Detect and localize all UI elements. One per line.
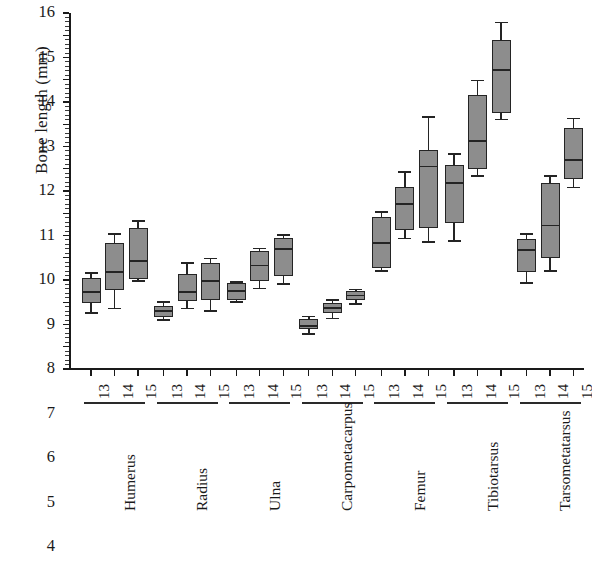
box-plot-item (250, 13, 269, 369)
x-stage-label: 13 (533, 384, 548, 399)
x-tick (259, 369, 260, 376)
upper-whisker-cap (302, 316, 315, 318)
median-line (299, 325, 318, 327)
box-body (468, 95, 487, 168)
y-tick-label: 9 (47, 316, 55, 333)
x-tick (549, 369, 550, 376)
lower-whisker (526, 272, 527, 282)
box-plot-item (105, 13, 124, 369)
lower-whisker-cap (520, 282, 533, 284)
upper-whisker (428, 116, 429, 149)
box-plot-item (372, 13, 391, 369)
x-tick (163, 369, 164, 376)
x-group-label: Femur (412, 471, 428, 511)
median-line (178, 291, 197, 293)
lower-whisker-cap (157, 319, 170, 321)
x-stage-label: 13 (242, 384, 257, 399)
y-tick-label: 4 (47, 538, 55, 555)
box-plot-item (299, 13, 318, 369)
upper-whisker-cap (567, 118, 580, 120)
box-plot-item (541, 13, 560, 369)
upper-whisker (500, 22, 501, 40)
box-plot-item (517, 13, 536, 369)
lower-whisker-cap (181, 308, 194, 310)
lower-whisker (428, 228, 429, 241)
upper-whisker-cap (204, 258, 217, 260)
median-line (82, 291, 101, 293)
x-tick (90, 369, 91, 376)
x-stage-label: 14 (556, 384, 571, 399)
median-line (154, 310, 173, 312)
x-stage-label: 14 (338, 384, 353, 399)
x-stage-label: 13 (387, 384, 402, 399)
x-group-label: Ulna (267, 481, 283, 511)
box-body (129, 228, 148, 279)
lower-whisker-cap (471, 175, 484, 177)
box-plot-item (201, 13, 220, 369)
box-plot-item (445, 13, 464, 369)
group-rule (374, 402, 435, 404)
lower-whisker-cap (349, 303, 362, 305)
median-line (346, 295, 365, 297)
box-series (69, 13, 584, 369)
median-line (274, 248, 293, 250)
group-rule (157, 402, 218, 404)
box-body (564, 128, 583, 179)
x-stage-label: 15 (144, 384, 159, 399)
y-tick-label: 13 (39, 138, 56, 155)
x-tick (114, 369, 115, 376)
x-tick (236, 369, 237, 376)
x-stage-label: 15 (217, 384, 232, 399)
group-rule (447, 402, 508, 404)
box-body (395, 187, 414, 230)
lower-whisker-cap (302, 333, 315, 335)
upper-whisker-cap (277, 234, 290, 236)
x-stage-label: 14 (484, 384, 499, 399)
lower-whisker-cap (495, 119, 508, 121)
lower-whisker (186, 301, 187, 308)
box-body (517, 239, 536, 272)
y-tick-label: 14 (39, 93, 56, 110)
upper-whisker-cap (398, 171, 411, 173)
upper-whisker-cap (85, 272, 98, 274)
box-body (445, 165, 464, 223)
lower-whisker (210, 300, 211, 310)
box-plot-item (468, 13, 487, 369)
x-tick (453, 369, 454, 376)
x-tick (137, 369, 138, 376)
x-tick (404, 369, 405, 376)
y-tick-label: 16 (39, 4, 56, 21)
x-stage-label: 13 (460, 384, 475, 399)
x-group-label: Tibiotarsus (485, 442, 501, 511)
box-body (178, 274, 197, 301)
upper-whisker-cap (471, 80, 484, 82)
x-stage-label: 14 (121, 384, 136, 399)
lower-whisker (549, 258, 550, 270)
median-line (419, 166, 438, 168)
y-tick-label: 10 (39, 271, 56, 288)
median-line (129, 260, 148, 262)
x-group-label: Humerus (122, 454, 138, 511)
y-tick-label: 7 (47, 405, 55, 422)
median-line (395, 203, 414, 205)
lower-whisker (477, 169, 478, 176)
median-line (323, 307, 342, 309)
x-tick (210, 369, 211, 376)
upper-whisker-cap (495, 22, 508, 24)
x-tick (355, 369, 356, 376)
lower-whisker (453, 223, 454, 240)
upper-whisker-cap (448, 153, 461, 155)
box-plot-item (154, 13, 173, 369)
x-stage-label: 15 (580, 384, 592, 399)
x-tick (428, 369, 429, 376)
y-tick-label: 6 (47, 449, 55, 466)
box-plot-item (564, 13, 583, 369)
x-stage-label: 15 (289, 384, 304, 399)
lower-whisker-cap (85, 312, 98, 314)
lower-whisker-cap (230, 301, 243, 303)
x-tick (283, 369, 284, 376)
x-stage-label: 13 (170, 384, 185, 399)
box-body (492, 40, 511, 113)
box-plot-item (346, 13, 365, 369)
x-tick (526, 369, 527, 376)
